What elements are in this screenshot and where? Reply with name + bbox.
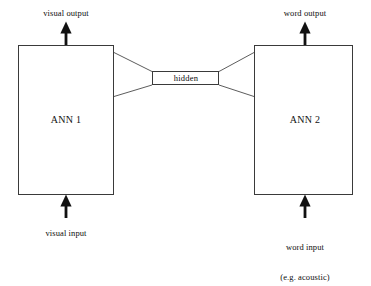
word-input-label-group: word input (e.g. acoustic) bbox=[280, 222, 329, 286]
ann2-label: ANN 2 bbox=[290, 114, 321, 125]
connection-ann1-bottom bbox=[114, 85, 152, 97]
word-output-arrow bbox=[299, 22, 310, 46]
connection-ann2-bottom bbox=[219, 85, 254, 97]
connection-ann2-top bbox=[219, 53, 254, 72]
word-input-label-line2: (e.g. acoustic) bbox=[280, 272, 329, 282]
word-input-label-line1: word input bbox=[280, 242, 329, 252]
connection-ann1-top bbox=[114, 53, 152, 72]
visual-output-arrow bbox=[60, 22, 71, 46]
word-input-arrow bbox=[299, 195, 310, 219]
visual-output-label: visual output bbox=[43, 8, 88, 18]
visual-input-arrow bbox=[60, 195, 71, 219]
ann1-label: ANN 1 bbox=[51, 114, 82, 125]
word-output-label: word output bbox=[284, 8, 326, 18]
hidden-layer-label: hidden bbox=[174, 73, 198, 83]
visual-input-label: visual input bbox=[45, 228, 86, 238]
